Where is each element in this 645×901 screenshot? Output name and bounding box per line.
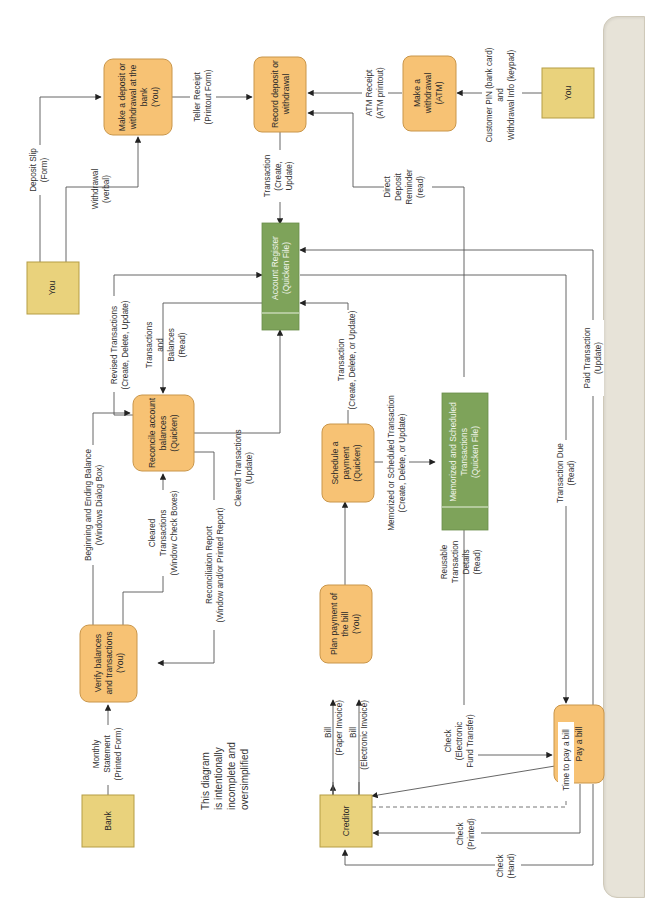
svg-text:ATM Receipt: ATM Receipt: [365, 69, 374, 116]
svg-text:(Update): (Update): [594, 342, 603, 374]
svg-text:incomplete and: incomplete and: [226, 742, 237, 810]
flow-label-memorized-flow: Memorized or Scheduled Transaction (Crea…: [383, 395, 409, 531]
svg-text:Transactions: Transactions: [459, 428, 469, 476]
svg-text:(Windows Dialog Box): (Windows Dialog Box): [95, 464, 104, 545]
svg-text:Transactions: Transactions: [145, 322, 154, 369]
flow-label-cleared-checkboxes: Cleared Transactions (Window Check Boxes…: [146, 490, 182, 576]
svg-text:(ATM): (ATM): [434, 81, 444, 104]
svg-text:Details: Details: [462, 549, 471, 574]
flow-label-reusable: Reusable Transaction Details (Read): [440, 540, 482, 583]
svg-text:Monthly: Monthly: [92, 739, 101, 769]
svg-text:Reusable: Reusable: [440, 544, 449, 579]
svg-text:is intentionally: is intentionally: [213, 747, 224, 810]
svg-text:(Quicken File): (Quicken File): [470, 426, 480, 478]
process-deposit-bank: Make a deposit or withdrawal at the bank…: [104, 59, 172, 135]
svg-text:Make a: Make a: [412, 79, 422, 107]
svg-text:(verbal): (verbal): [102, 175, 111, 203]
svg-text:payment: payment: [341, 446, 351, 480]
svg-text:Paid Transaction: Paid Transaction: [583, 327, 592, 388]
flow-label-customer-pin: Customer PIN (bank card) and Withdrawal …: [482, 45, 522, 145]
svg-text:(Printout Form): (Printout Form): [204, 69, 213, 124]
entity-you-right: You: [542, 68, 594, 118]
datastore-account-register: Account Register (Quicken File): [262, 223, 299, 330]
process-plan: Plan payment of the bill (You): [320, 585, 372, 663]
svg-text:bank: bank: [139, 87, 149, 106]
svg-text:Reconciliation Report: Reconciliation Report: [205, 525, 214, 604]
svg-text:Direct: Direct: [383, 176, 392, 198]
svg-text:(You): (You): [150, 87, 160, 107]
svg-text:Bill: Bill: [349, 727, 358, 738]
svg-text:(Window Check Boxes): (Window Check Boxes): [170, 490, 179, 575]
flow-label-transactions-balances: Transactions and Balances (Read): [145, 322, 187, 369]
svg-text:(Electronic Invoice): (Electronic Invoice): [360, 700, 369, 770]
svg-text:withdrawal: withdrawal: [281, 74, 291, 116]
process-reconcile: Reconcile account balances (Quicken): [133, 395, 194, 471]
process-record: Record deposit or withdrawal: [254, 57, 306, 132]
process-verify: Verify balances and transactions (You): [80, 625, 137, 702]
datastore-memorized: Memorized and Scheduled Transactions (Qu…: [442, 393, 488, 530]
svg-text:Verify balances: Verify balances: [93, 634, 103, 692]
flow-label-transaction-due: Transaction Due (Read): [554, 440, 580, 506]
flow-label-beginning-ending: Beginning and Ending Balance (Windows Di…: [82, 445, 106, 565]
svg-text:(Read): (Read): [567, 460, 576, 485]
svg-text:(You): (You): [351, 614, 361, 634]
flow-label-check-hand: Check (Hand): [495, 852, 521, 880]
svg-text:Bill: Bill: [324, 727, 333, 738]
svg-text:Schedule a: Schedule a: [330, 441, 340, 484]
svg-text:Memorized or Scheduled Transac: Memorized or Scheduled Transaction: [387, 395, 396, 531]
flow-label-deposit-slip: Deposit Slip (Form): [28, 145, 50, 195]
svg-text:Bank: Bank: [103, 811, 113, 831]
flow-label-atm-receipt: ATM Receipt (ATM printout): [362, 66, 388, 120]
svg-text:Make a deposit or: Make a deposit or: [117, 63, 127, 131]
flow-label-direct-deposit: Direct Deposit Reminder (read): [383, 169, 432, 205]
svg-text:Customer PIN (bank card): Customer PIN (bank card): [485, 47, 494, 142]
svg-text:and transactions: and transactions: [104, 631, 114, 694]
svg-text:Balances: Balances: [167, 328, 176, 362]
flow-label-monthly-statement: Monthly Statement (Printed Form): [92, 725, 126, 785]
svg-text:Reminder: Reminder: [405, 169, 414, 205]
svg-text:(Update): (Update): [245, 452, 254, 484]
svg-text:(Read): (Read): [178, 332, 187, 357]
svg-text:(Printed): (Printed): [467, 818, 476, 850]
svg-text:Check: Check: [456, 821, 465, 845]
svg-text:(Electronic: (Electronic: [455, 722, 464, 761]
svg-text:Beginning and Ending Balance: Beginning and Ending Balance: [84, 449, 93, 561]
svg-text:(Quicken): (Quicken): [352, 444, 362, 481]
process-schedule: Schedule a payment (Quicken): [322, 424, 374, 502]
svg-text:You: You: [563, 86, 573, 101]
svg-text:Fund Transfer): Fund Transfer): [466, 714, 475, 768]
svg-text:Account Register: Account Register: [270, 236, 280, 300]
svg-text:and: and: [496, 88, 505, 102]
svg-text:withdrawal at the: withdrawal at the: [128, 65, 138, 131]
flow-label-check-eft: Check (Electronic Fund Transfer): [442, 705, 478, 777]
svg-text:Record deposit or: Record deposit or: [270, 60, 280, 128]
svg-text:(Quicken): (Quicken): [169, 414, 179, 451]
svg-text:(Read): (Read): [473, 549, 482, 574]
svg-text:(Window and/or Printed Report): (Window and/or Printed Report): [216, 507, 225, 622]
svg-text:Statement: Statement: [103, 735, 112, 773]
svg-text:oversimplified: oversimplified: [239, 749, 250, 810]
svg-text:and: and: [156, 338, 165, 352]
svg-text:Teller Receipt: Teller Receipt: [193, 71, 202, 121]
svg-text:(Printed Form): (Printed Form): [114, 727, 123, 780]
svg-text:balances: balances: [158, 416, 168, 450]
svg-text:Cleared Transactions: Cleared Transactions: [234, 429, 243, 506]
svg-text:the bill: the bill: [340, 611, 350, 636]
flow-label-withdrawal-verbal: Withdrawal (verbal): [91, 169, 111, 210]
flow-label-revised-transactions: Revised Transactions (Create, Delete, Up…: [108, 296, 130, 392]
flow-label-cleared-update: Cleared Transactions (Update): [234, 429, 254, 506]
svg-text:(read): (read): [416, 176, 425, 198]
flow-label-teller-receipt: Teller Receipt (Printout Form): [190, 69, 216, 126]
svg-text:(Create, Delete, Update): (Create, Delete, Update): [121, 300, 130, 389]
svg-text:Transactions: Transactions: [159, 510, 168, 557]
svg-text:Transaction: Transaction: [263, 154, 272, 197]
svg-text:(Hand): (Hand): [507, 853, 516, 878]
svg-text:Check: Check: [444, 728, 453, 752]
svg-text:(Create,: (Create,: [274, 161, 283, 191]
svg-text:Deposit: Deposit: [394, 172, 403, 200]
flow-label-transaction-cdu: Transaction (Create, Delete, or Update): [336, 310, 360, 410]
svg-text:Memorized and Scheduled: Memorized and Scheduled: [448, 402, 458, 502]
flow-label-check-printed: Check (Printed): [455, 818, 481, 850]
svg-text:Update): Update): [285, 161, 294, 190]
